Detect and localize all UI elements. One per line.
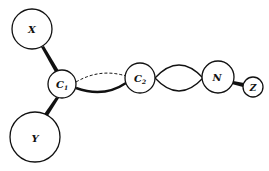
atom-n: N (202, 61, 234, 93)
bonding-diagram: X C 1 Y C 2 N Z (0, 0, 269, 171)
atom-c1-subscript: 1 (64, 84, 68, 91)
atom-n-label: N (211, 72, 222, 83)
atom-x: X (12, 9, 52, 49)
atom-y: Y (10, 112, 60, 162)
atom-c1: C 1 (48, 70, 76, 98)
atom-y-label: Y (31, 133, 39, 144)
bond-c2-n-lower-lobe (155, 78, 203, 91)
bond-c1-c2-solid (76, 83, 126, 92)
atom-c2-subscript: 2 (141, 78, 146, 85)
atom-z: Z (243, 77, 263, 97)
atom-c2: C 2 (125, 63, 155, 93)
atom-c2-label: C (134, 73, 142, 84)
bond-c2-n-upper-lobe (155, 65, 203, 78)
atom-z-label: Z (249, 83, 257, 93)
atom-c1-label: C (56, 79, 64, 90)
bond-c1-c2-dashed (76, 73, 126, 82)
bond-x-c1 (41, 46, 59, 72)
atom-x-label: X (27, 24, 37, 35)
